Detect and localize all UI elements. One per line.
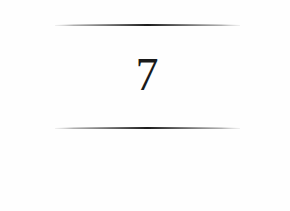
top-divider-rule [55,24,240,26]
chapter-number: 7 [0,52,290,98]
bottom-divider-rule [55,127,240,129]
document-page: 7 [0,0,290,211]
